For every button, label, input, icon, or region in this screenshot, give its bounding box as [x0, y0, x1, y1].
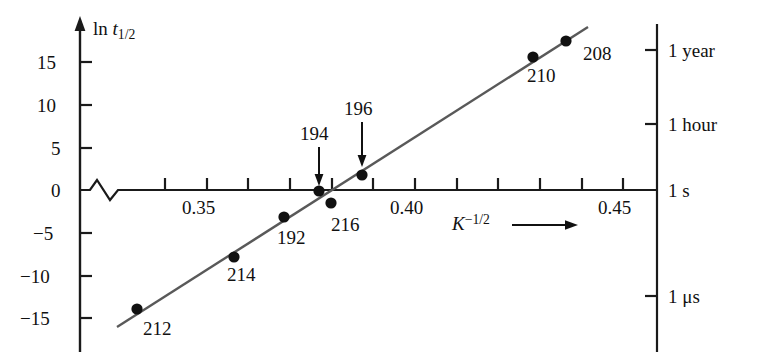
- y-tick-label-neg15: −15: [20, 309, 50, 328]
- point-label-216: 216: [331, 215, 360, 234]
- y-tick-label-neg5: −5: [33, 224, 53, 243]
- data-point-192: [278, 211, 289, 222]
- y-tick-label-5: 5: [51, 139, 61, 158]
- y-axis: [75, 16, 86, 352]
- data-point-210: [527, 51, 538, 62]
- right-axis-label-1-s: 1 s: [668, 181, 690, 200]
- x-tick-label-045: 0.45: [598, 198, 631, 217]
- annotation-label-196: 196: [344, 99, 373, 118]
- x-axis: [80, 180, 657, 200]
- x-axis-title-exponent: −1/2: [465, 212, 490, 227]
- data-point-194: [313, 185, 324, 196]
- point-label-214: 214: [227, 265, 256, 284]
- y-axis-title: ln t1/2: [93, 19, 135, 42]
- xaxis-title-arrow: [512, 220, 578, 230]
- x-tick-label-035: 0.35: [182, 198, 215, 217]
- data-point-212: [131, 303, 142, 314]
- right-axis-label-1-hour: 1 hour: [668, 115, 717, 134]
- arrow-head-194: [315, 174, 324, 186]
- x-axis-ticks: [165, 178, 623, 190]
- y-tick-label-10: 10: [37, 96, 56, 115]
- x-axis-title: K−1/2: [452, 213, 490, 233]
- point-label-210: 210: [527, 66, 556, 85]
- y-tick-label-neg10: −10: [20, 267, 50, 286]
- right-axis: [645, 24, 657, 352]
- data-point-196: [356, 169, 367, 180]
- fit-line: [117, 27, 588, 327]
- point-label-212: 212: [143, 319, 172, 338]
- y-axis-title-prefix: ln: [93, 18, 113, 39]
- half-life-plot-figure: ln t1/2 15 10 5 0 −5 −10 −15 0.35 0.40 0…: [0, 0, 764, 363]
- y-tick-label-15: 15: [37, 53, 56, 72]
- right-axis-label-1-microsecond: 1 μs: [668, 287, 700, 306]
- annotation-label-194: 194: [300, 124, 329, 143]
- arrow-head-196: [358, 155, 367, 167]
- plot-canvas: [0, 0, 764, 363]
- right-axis-label-1-year: 1 year: [668, 41, 715, 60]
- data-points: [131, 35, 571, 314]
- x-axis-title-base: K: [452, 213, 465, 234]
- y-tick-label-0: 0: [51, 181, 61, 200]
- data-point-214: [228, 251, 239, 262]
- data-point-208: [560, 35, 571, 46]
- point-label-208: 208: [583, 44, 612, 63]
- data-point-216: [325, 197, 336, 208]
- x-tick-label-040: 0.40: [390, 198, 423, 217]
- point-label-192: 192: [277, 228, 306, 247]
- y-axis-title-subscript: 1/2: [118, 27, 135, 42]
